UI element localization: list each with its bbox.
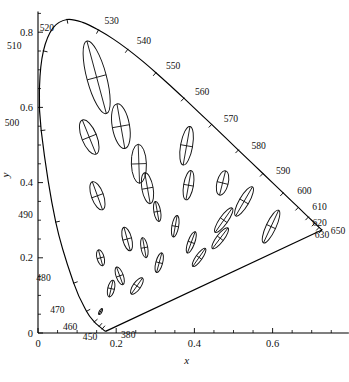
wavelength-tick (125, 49, 128, 53)
ellipse-minor-axis (217, 236, 223, 241)
axes-group (38, 12, 349, 333)
wavelength-label-460: 460 (63, 321, 78, 332)
wavelength-tick (209, 124, 212, 127)
wavelength-label-520: 520 (40, 22, 55, 33)
wavelength-label-540: 540 (137, 35, 152, 46)
wavelength-label-490: 490 (18, 209, 33, 220)
wavelength-tick (94, 319, 98, 322)
line-of-purples (106, 230, 322, 331)
macadam-ellipses-group (75, 39, 283, 316)
macadam-ellipse (98, 308, 103, 315)
macadam-ellipse (95, 249, 106, 267)
wavelength-label-590: 590 (276, 165, 291, 176)
wavelength-tick (181, 98, 184, 102)
macadam-ellipse (209, 226, 231, 251)
y-tick-label: 0.8 (20, 27, 33, 38)
y-tick-label: 0 (28, 328, 33, 339)
chromaticity-diagram-figure: 3804504604704804905005105205305405505605… (0, 0, 349, 382)
wavelength-tick (280, 192, 283, 195)
x-tick-label: 0 (35, 338, 40, 349)
macadam-ellipse (214, 169, 231, 196)
wavelength-tick (235, 150, 238, 153)
macadam-ellipse (181, 170, 196, 201)
wavelength-label-480: 480 (36, 272, 51, 283)
x-tick-label: 0.4 (188, 338, 202, 349)
macadam-ellipse (106, 279, 116, 297)
wavelength-tick (153, 72, 156, 76)
wavelength-label-550: 550 (166, 60, 181, 71)
x-tick-label: 0.2 (110, 338, 123, 349)
y-axis-title: y (0, 173, 11, 179)
macadam-ellipse (177, 125, 196, 166)
wavelength-label-500: 500 (5, 117, 20, 128)
wavelength-tick (295, 207, 298, 210)
macadam-ellipse (212, 206, 236, 235)
macadam-ellipse (120, 226, 135, 252)
wavelength-label-450: 450 (83, 331, 98, 342)
macadam-ellipse (75, 117, 103, 157)
macadam-ellipse (139, 172, 156, 205)
macadam-ellipse (152, 201, 162, 222)
wavelength-label-650: 650 (331, 225, 346, 236)
macadam-ellipse (184, 231, 198, 255)
macadam-ellipse (131, 144, 147, 184)
ellipse-minor-axis (196, 256, 201, 260)
wavelength-label-600: 600 (297, 185, 312, 196)
wavelength-tick (260, 173, 263, 176)
ellipse-minor-axis (82, 134, 96, 140)
ellipse-minor-axis (267, 225, 276, 229)
macadam-ellipse (190, 247, 208, 269)
wavelength-label-630: 630 (315, 229, 330, 240)
ellipse-minor-axis (141, 247, 148, 248)
wavelength-labels-group: 3804504604704804905005105205305405505605… (5, 15, 346, 342)
ellipse-minor-axis (172, 226, 179, 227)
ellipse-minor-axis (87, 75, 106, 80)
macadam-ellipse (139, 237, 149, 258)
wavelength-label-470: 470 (50, 304, 65, 315)
ellipse-minor-axis (240, 199, 248, 204)
wavelength-tick (305, 217, 308, 220)
wavelength-label-610: 610 (312, 201, 327, 212)
wavelength-label-570: 570 (224, 113, 239, 124)
macadam-ellipse (153, 252, 165, 273)
macadam-ellipse (231, 184, 256, 218)
wavelength-label-560: 560 (195, 86, 210, 97)
y-tick-label: 0.2 (20, 252, 33, 263)
macadam-ellipse (259, 208, 283, 245)
wavelength-tick (41, 130, 46, 131)
ellipse-minor-axis (220, 218, 227, 223)
wavelength-tick (102, 326, 105, 330)
ellipse-minor-axis (154, 211, 161, 212)
x-tick-label: 0.6 (266, 338, 279, 349)
macadam-ellipse (77, 39, 115, 117)
wavelength-label-380: 380 (121, 329, 136, 340)
ellipse-minor-axis (131, 164, 146, 165)
x-axis-title: x (183, 354, 189, 366)
macadam-ellipse (128, 276, 145, 296)
ellipse-minor-axis (134, 284, 140, 288)
y-tick-label: 0.6 (20, 102, 33, 113)
wavelength-label-580: 580 (251, 140, 266, 151)
wavelength-label-530: 530 (104, 15, 119, 26)
macadam-ellipse (170, 215, 180, 238)
ellipse-minor-axis (99, 311, 101, 312)
wavelength-label-510: 510 (7, 40, 22, 51)
macadam-ellipse (87, 180, 108, 212)
chart-canvas: 3804504604704804905005105205305405505605… (0, 0, 349, 382)
wavelength-tick (99, 323, 102, 327)
macadam-ellipse (108, 102, 133, 150)
y-tick-label: 0.4 (20, 177, 34, 188)
ellipse-minor-axis (92, 194, 103, 198)
wavelength-label-620: 620 (312, 217, 327, 228)
